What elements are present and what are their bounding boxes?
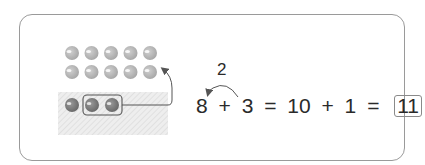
equals-sign: = <box>367 94 379 118</box>
plus-sign: + <box>321 94 333 118</box>
term-3: 10 <box>287 94 310 118</box>
carry-label: 2 <box>217 60 226 80</box>
term-2: 3 <box>242 94 254 118</box>
ball-row-2 <box>65 65 157 79</box>
term-1: 8 <box>196 94 208 118</box>
equation: 8 + 3 = 10 + 1 = 11 <box>196 94 422 118</box>
plus-sign: + <box>219 94 231 118</box>
counting-illustration <box>0 0 425 165</box>
ten-balls <box>65 46 157 79</box>
extra-balls <box>65 98 119 112</box>
term-4: 1 <box>345 94 357 118</box>
ball-row-1 <box>65 46 157 60</box>
equals-sign: = <box>264 94 276 118</box>
answer-box: 11 <box>394 95 422 117</box>
